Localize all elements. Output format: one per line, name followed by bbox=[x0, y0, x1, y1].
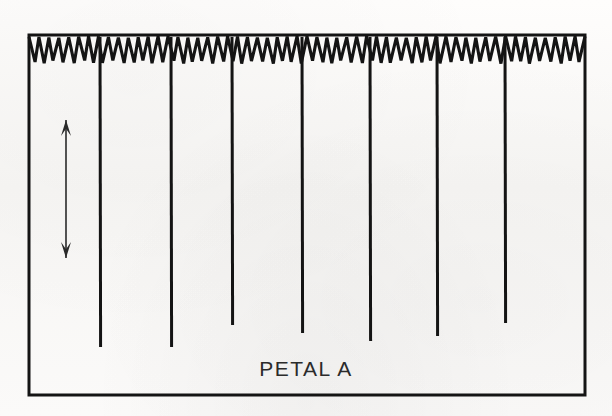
figure-panel: PETAL A bbox=[0, 0, 612, 416]
deflection-spike bbox=[370, 37, 371, 341]
sawtooth-path bbox=[29, 36, 585, 63]
chart-frame-border bbox=[29, 35, 585, 395]
deflection-spike bbox=[505, 37, 506, 323]
deflection-spike bbox=[232, 37, 233, 325]
deflection-spike bbox=[437, 37, 438, 336]
deflection-spike bbox=[302, 37, 303, 333]
chart-frame bbox=[29, 35, 585, 395]
deflection-spike bbox=[171, 37, 172, 347]
amplitude-arrow bbox=[61, 120, 71, 258]
deflection-spike bbox=[100, 37, 101, 347]
sawtooth-oscillation-band bbox=[29, 36, 585, 63]
deflection-spikes-group bbox=[100, 37, 506, 347]
chart-trace bbox=[0, 0, 612, 416]
